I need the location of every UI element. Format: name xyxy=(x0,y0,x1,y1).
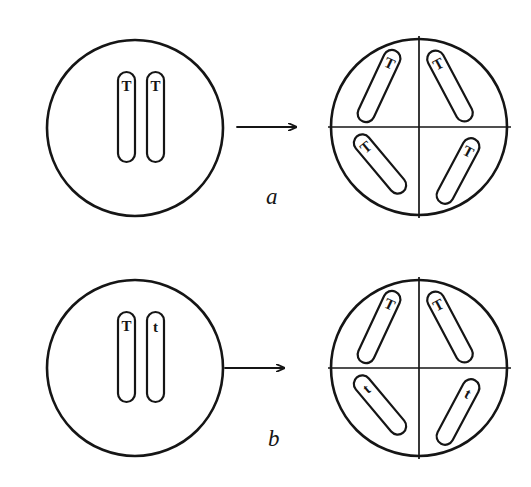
panel-label-a: a xyxy=(266,184,278,210)
allele-label: t xyxy=(153,319,158,335)
daughter-cell-a[interactable]: T T T T xyxy=(328,36,511,218)
figure-canvas: T T T xyxy=(0,0,531,487)
chromosome-b-p-2[interactable]: t xyxy=(147,312,164,402)
panel-label-b: b xyxy=(268,426,280,452)
daughter-cell-b[interactable]: T T t t xyxy=(328,277,511,459)
panel-a: T T T xyxy=(47,36,511,218)
chromosome-a-p-1[interactable]: T xyxy=(118,72,135,162)
allele-label: T xyxy=(121,318,131,334)
parent-cell-b[interactable]: T t xyxy=(47,280,223,456)
chromosome-segregation-figure: T T T xyxy=(0,0,531,487)
allele-label: T xyxy=(121,78,131,94)
chromosome-b-p-1[interactable]: T xyxy=(118,312,135,402)
allele-label: T xyxy=(150,78,160,94)
chromosome-a-p-2[interactable]: T xyxy=(147,72,164,162)
parent-cell-a[interactable]: T T xyxy=(47,40,223,216)
